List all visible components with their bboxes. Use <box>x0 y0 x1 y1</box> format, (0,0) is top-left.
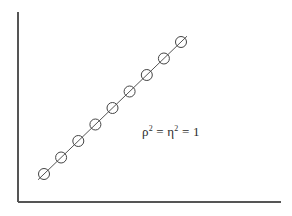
plot-canvas <box>0 0 292 216</box>
data-series-group <box>38 36 187 180</box>
axes-group <box>18 12 281 202</box>
chart-figure: ρ2 = η2 = 1 <box>0 0 292 216</box>
trend-line <box>38 36 187 180</box>
